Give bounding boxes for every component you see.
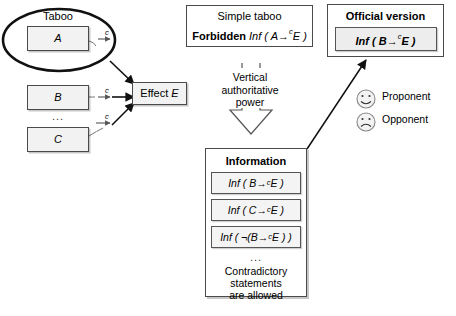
effect-word: Effect <box>140 87 168 99</box>
information-item-sup: c <box>268 232 272 241</box>
node-simple-taboo[interactable]: Simple taboo Forbidden Inf ( A→cE ) <box>186 5 313 47</box>
official-formula-suffix: E ) <box>401 34 415 46</box>
official-version-formula-box[interactable]: Inf ( B→cE ) <box>335 27 437 51</box>
vertical-power-line1: Vertical <box>205 71 295 84</box>
legend-proponent-label: Proponent <box>382 90 430 102</box>
official-formula-prefix: Inf ( B <box>356 34 387 46</box>
forbidden-label: Forbidden <box>192 29 246 41</box>
information-item-arrow: → <box>256 204 267 216</box>
information-item[interactable]: Inf ( ¬(B→cE ) ) <box>211 226 301 248</box>
arrow-a-to-effect <box>110 61 134 84</box>
node-box-a[interactable]: A <box>27 26 89 51</box>
effect-symbol: E <box>171 87 178 99</box>
information-item-arrow: → <box>256 177 267 189</box>
node-effect-e-label: Effect E <box>140 87 178 100</box>
information-item-sup: c <box>267 178 271 187</box>
connector-c-stub <box>89 128 103 136</box>
node-box-b-label: B <box>54 91 61 104</box>
information-note: Contradictory statements are allowed <box>206 265 306 301</box>
information-note-line2: are allowed <box>206 289 306 301</box>
connector-a-stub <box>89 41 96 46</box>
legend-opponent-label: Opponent <box>382 113 428 125</box>
information-item[interactable]: Inf ( B→cE ) <box>211 172 301 194</box>
information-item[interactable]: Inf ( C→cE ) <box>211 199 301 221</box>
official-version-formula: Inf ( B→cE ) <box>356 31 416 48</box>
taboo-ellipse-label: Taboo <box>27 10 89 22</box>
official-version-title: Official version <box>346 10 425 23</box>
information-note-line1: Contradictory statements <box>206 265 306 289</box>
node-effect-e[interactable]: Effect E <box>132 82 187 105</box>
legend-opponent: Opponent <box>356 113 428 125</box>
cause-marker-c: c <box>105 112 109 121</box>
node-information[interactable]: Information Inf ( B→cE ) Inf ( C→cE ) In… <box>205 148 307 297</box>
information-ellipsis: ... <box>206 251 306 263</box>
node-box-a-label: A <box>54 32 61 45</box>
arrow-information-to-official <box>307 60 366 149</box>
node-official-version[interactable]: Official version Inf ( B→cE ) <box>327 4 444 57</box>
information-item-suffix: E ) ) <box>272 231 292 243</box>
simple-taboo-line1: Simple taboo <box>217 10 281 23</box>
information-item-suffix: E ) <box>270 177 283 189</box>
information-item-prefix: Inf ( ¬(B <box>220 231 258 243</box>
official-formula-sup: c <box>398 32 402 41</box>
information-item-sup: c <box>267 205 271 214</box>
information-item-suffix: E ) <box>271 204 284 216</box>
vertical-power-line3: power <box>205 96 295 109</box>
official-formula-arrow: → <box>387 34 398 46</box>
simple-taboo-formula-arrow: → <box>278 29 289 41</box>
cause-marker-b: c <box>105 86 109 95</box>
simple-taboo-formula-sup: c <box>289 27 293 36</box>
diagram-canvas: Taboo A B ... C Effect E c c c Simple ta… <box>0 0 456 316</box>
simple-taboo-formula-suffix: E ) <box>293 29 307 41</box>
simple-taboo-formula-prefix: Inf ( A <box>249 29 278 41</box>
left-group-ellipsis: ... <box>27 110 89 122</box>
node-box-c[interactable]: C <box>27 127 89 152</box>
vertical-power-label: Vertical authoritative power <box>205 71 295 109</box>
simple-taboo-formula: Forbidden Inf ( A→cE ) <box>192 26 307 43</box>
legend-proponent: Proponent <box>356 90 430 102</box>
information-item-prefix: Inf ( B <box>228 177 256 189</box>
information-item-prefix: Inf ( C <box>228 204 257 216</box>
information-item-arrow: → <box>258 231 269 243</box>
vertical-power-line2: authoritative <box>205 84 295 97</box>
node-box-c-label: C <box>54 133 62 146</box>
cause-marker-a: c <box>105 28 109 37</box>
arrow-c-to-effect <box>112 103 134 125</box>
node-box-b[interactable]: B <box>27 85 89 110</box>
information-title: Information <box>206 155 306 167</box>
